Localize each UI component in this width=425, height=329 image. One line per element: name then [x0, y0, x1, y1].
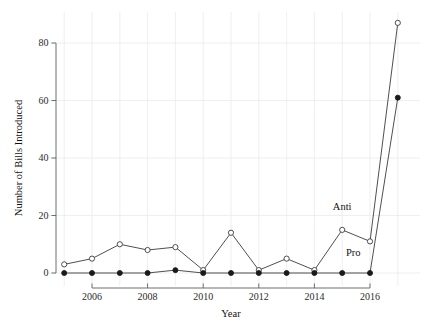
data-point-pro — [368, 271, 373, 276]
series-annotation-pro: Pro — [346, 247, 361, 258]
y-axis-title: Number of Bills Introduced — [13, 99, 24, 216]
y-axis-tick-label: 60 — [39, 95, 49, 106]
data-point-pro — [145, 271, 150, 276]
data-point-pro — [340, 271, 345, 276]
x-axis-tick-label: 2006 — [82, 291, 102, 302]
data-point-anti — [62, 262, 67, 267]
data-point-anti — [228, 230, 233, 235]
data-point-pro — [395, 95, 400, 100]
data-point-anti — [145, 247, 150, 252]
data-point-pro — [284, 271, 289, 276]
chart-container: 020406080200620082010201220142016 YearNu… — [0, 0, 425, 329]
data-point-anti — [284, 256, 289, 261]
y-axis-tick-label: 20 — [39, 210, 49, 221]
y-axis-tick-label: 0 — [44, 267, 49, 278]
line-chart-svg: 020406080200620082010201220142016 YearNu… — [0, 0, 425, 329]
data-point-pro — [229, 271, 234, 276]
x-axis-tick-label: 2016 — [360, 291, 380, 302]
data-point-pro — [256, 271, 261, 276]
chart-labels: YearNumber of Bills IntroducedAntiPro — [13, 99, 361, 319]
grid-lines — [48, 12, 420, 286]
y-axis-tick-label: 80 — [39, 37, 49, 48]
data-point-anti — [395, 20, 400, 25]
data-point-pro — [62, 271, 67, 276]
y-axis-tick-label: 40 — [39, 152, 49, 163]
data-point-anti — [173, 245, 178, 250]
data-point-pro — [312, 271, 317, 276]
data-point-pro — [117, 271, 122, 276]
x-axis-tick-label: 2012 — [249, 291, 269, 302]
data-point-anti — [117, 242, 122, 247]
data-point-pro — [201, 271, 206, 276]
x-axis-tick-label: 2008 — [138, 291, 158, 302]
series-annotation-anti: Anti — [333, 201, 352, 212]
data-point-pro — [173, 268, 178, 273]
data-point-anti — [340, 227, 345, 232]
x-axis-title: Year — [221, 308, 241, 319]
data-point-pro — [90, 271, 95, 276]
data-point-anti — [367, 239, 372, 244]
x-axis-tick-label: 2014 — [304, 291, 324, 302]
data-point-anti — [89, 256, 94, 261]
x-axis-tick-label: 2010 — [193, 291, 213, 302]
